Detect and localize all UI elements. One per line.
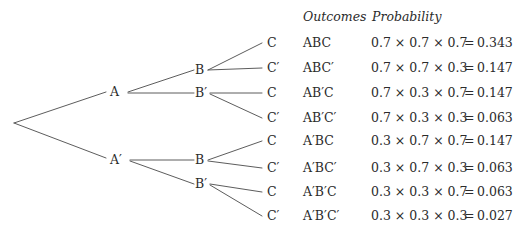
outcome-value: AB′C [303,87,334,100]
probability-value: 0.147 [477,135,513,148]
edge-anot-to-bnot [130,161,194,184]
tree-node-b-lower: B [195,154,204,167]
edge-root-to-anot [14,123,106,158]
outcome-value: ABC′ [303,62,334,75]
probability-column-header: Probability [372,11,441,24]
tree-node-a: A [110,86,119,99]
probability-value: 0.343 [477,37,513,50]
tree-node-a-complement: A′ [110,154,122,167]
probability-expression: 0.3 × 0.7 × 0.3 [371,162,467,175]
tree-leaf-c-7: C [267,186,277,199]
outcome-value: AB′C′ [303,112,336,125]
tree-node-b-upper: B [195,64,204,77]
edge-b1-to-cnot [208,68,262,70]
tree-leaf-c-8: C′ [267,210,279,223]
outcome-value: A′BC [303,135,334,148]
edge-b4-to-c [210,184,262,192]
probability-tree-figure: Outcomes Probability A A′ B B′ B B′ C C′… [0,0,519,230]
probability-value: 0.063 [477,186,513,199]
probability-expression: 0.3 × 0.7 × 0.7 [371,135,467,148]
tree-node-b-complement-lower: B′ [195,178,207,191]
equals-sign: = [464,37,474,50]
edge-b3-to-c [208,141,262,160]
probability-value: 0.027 [477,210,513,223]
equals-sign: = [464,162,474,175]
probability-expression: 0.3 × 0.3 × 0.3 [371,210,467,223]
probability-value: 0.147 [477,62,513,75]
edge-b2-to-cnot [210,94,262,118]
outcome-value: A′BC′ [303,162,337,175]
probability-value: 0.063 [477,162,513,175]
outcome-value: A′B′C′ [303,210,339,223]
tree-leaf-c-6: C′ [267,162,279,175]
equals-sign: = [464,87,474,100]
probability-expression: 0.7 × 0.7 × 0.7 [371,37,467,50]
edge-b3-to-cnot [208,161,262,168]
probability-expression: 0.7 × 0.3 × 0.7 [371,87,467,100]
tree-leaf-c-3: C [267,87,277,100]
equals-sign: = [464,112,474,125]
probability-expression: 0.3 × 0.3 × 0.7 [371,186,467,199]
edge-a-to-b [128,70,194,92]
equals-sign: = [464,62,474,75]
equals-sign: = [464,135,474,148]
equals-sign: = [464,186,474,199]
tree-leaf-c-2: C′ [267,62,279,75]
tree-leaf-c-4: C′ [267,112,279,125]
tree-node-b-complement-upper: B′ [195,87,207,100]
tree-leaf-c-5: C [267,135,277,148]
probability-value: 0.063 [477,112,513,125]
outcome-value: A′B′C [303,186,336,199]
edge-root-to-a [14,92,106,123]
outcome-value: ABC [303,37,331,50]
probability-value: 0.147 [477,87,513,100]
outcomes-column-header: Outcomes [303,11,367,24]
edge-b4-to-cnot [210,185,262,216]
edge-b1-to-c [208,43,262,70]
tree-leaf-c-1: C [267,37,277,50]
equals-sign: = [464,210,474,223]
probability-expression: 0.7 × 0.7 × 0.3 [371,62,467,75]
probability-expression: 0.7 × 0.3 × 0.3 [371,112,467,125]
